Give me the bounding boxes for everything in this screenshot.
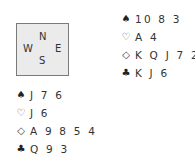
west-hearts: J 6 <box>30 106 50 120</box>
club-icon: ♣ <box>16 142 26 156</box>
heart-icon: ♡ <box>121 30 131 44</box>
west-spades: J 7 6 <box>30 88 64 102</box>
compass-north: N <box>39 32 46 42</box>
heart-icon: ♡ <box>16 106 26 120</box>
diamond-icon: ◇ <box>16 124 26 138</box>
compass-east: E <box>55 44 61 54</box>
west-clubs: Q 9 3 <box>30 142 69 156</box>
club-icon: ♣ <box>121 66 131 80</box>
diamond-icon: ◇ <box>121 48 131 62</box>
spade-icon: ♠ <box>16 88 26 102</box>
compass-south: S <box>39 56 45 66</box>
spade-icon: ♠ <box>121 12 131 26</box>
compass-box: N W E S <box>16 23 69 76</box>
west-diamonds: A 9 8 5 4 <box>30 124 97 138</box>
north-spades: 10 8 3 <box>135 12 182 26</box>
north-diamonds: K Q J 7 2 <box>135 48 195 62</box>
compass-west: W <box>23 44 33 54</box>
north-hearts: A 4 <box>135 30 159 44</box>
north-clubs: K J 6 <box>135 66 169 80</box>
